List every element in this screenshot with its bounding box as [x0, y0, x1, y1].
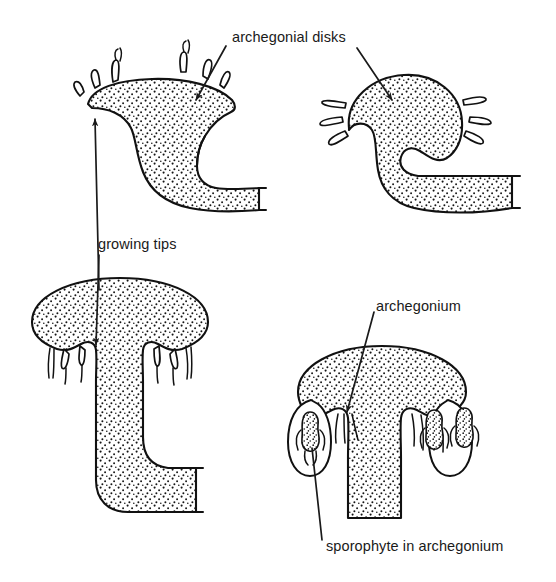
- label-growing-tips: growing tips: [98, 236, 177, 252]
- diagram-canvas: archegonial disks growing tips archegoni…: [0, 0, 556, 582]
- figure-root: archegonial disks growing tips archegoni…: [0, 0, 556, 582]
- label-archegonium: archegonium: [376, 298, 461, 314]
- label-sporophyte-in-archegonium: sporophyte in archegonium: [326, 538, 503, 554]
- rhizoid-group-bottom-left: [48, 346, 85, 384]
- label-archegonial-disks: archegonial disks: [232, 29, 346, 45]
- panel-top-right: [320, 75, 520, 213]
- panel-top-left: [74, 40, 266, 211]
- rhizoid-group-bottom-left-right-side: [154, 346, 192, 385]
- panel-bottom-left: [32, 278, 208, 512]
